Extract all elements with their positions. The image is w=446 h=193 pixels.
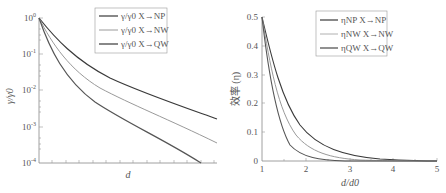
right-xtick-3: 3 — [348, 164, 353, 174]
left-legend-np: γ/γ0 X→NP — [120, 11, 165, 21]
left-ytick-3: 10-3 — [22, 121, 36, 132]
left-x-axis-label: d — [126, 169, 132, 180]
left-y-axis-label: γ/γ0 — [4, 88, 15, 104]
left-legend-nw: γ/γ0 X→NW — [120, 25, 169, 35]
left-legend-qw: γ/γ0 X→QW — [120, 39, 169, 49]
figure: 100 10-1 10-2 10-3 10-4 γ/γ0 d γ/γ0 X→NP… — [0, 0, 446, 193]
right-x-axis-label: d/d0 — [341, 177, 359, 188]
right-ytick-04: 0.4 — [247, 41, 259, 51]
right-legend-nw: ηNW X→NW — [341, 29, 394, 39]
left-chart: 100 10-1 10-2 10-3 10-4 γ/γ0 d γ/γ0 X→NP… — [4, 8, 217, 180]
left-ytick-1: 10-1 — [22, 48, 36, 59]
right-ytick-03: 0.3 — [247, 70, 259, 80]
right-xtick-2: 2 — [304, 164, 309, 174]
right-legend-qw: ηQW X→QW — [341, 43, 394, 53]
right-xtick-5: 5 — [435, 164, 440, 174]
right-ytick-01: 0.1 — [247, 127, 258, 137]
left-ytick-4: 10-4 — [22, 157, 36, 168]
left-y-ticks — [39, 18, 43, 149]
right-xtick-4: 4 — [391, 164, 396, 174]
right-ytick-0: 0 — [254, 156, 259, 166]
left-legend: γ/γ0 X→NP γ/γ0 X→NW γ/γ0 X→QW — [95, 8, 169, 53]
right-xtick-1: 1 — [260, 164, 265, 174]
right-ytick-05: 0.5 — [247, 12, 259, 22]
right-ytick-02: 0.2 — [247, 98, 258, 108]
left-ytick-2: 10-2 — [22, 84, 36, 95]
right-y-axis-label: 效率 (η) — [229, 72, 242, 106]
right-chart: 0.5 0.4 0.3 0.2 0.1 0 1 2 3 4 5 效率 (η) d… — [229, 11, 440, 188]
right-legend-np: ηNP X→NP — [341, 15, 386, 25]
left-x-ticks — [52, 160, 214, 163]
right-legend: ηNP X→NP ηNW X→NW ηQW X→QW — [316, 11, 394, 56]
left-ytick-0: 100 — [24, 12, 36, 23]
